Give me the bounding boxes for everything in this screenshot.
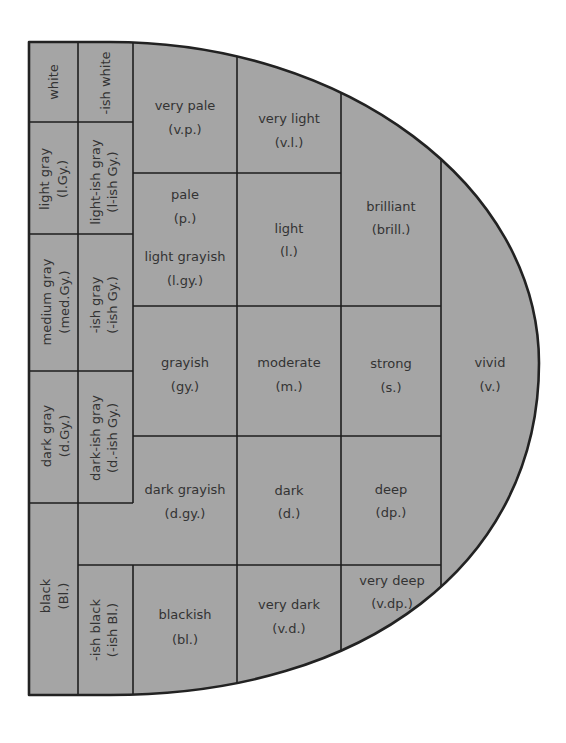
cell-abbr: (l-ish Gy.) [105, 151, 120, 212]
cell-abbr: (-ish Bl.) [105, 603, 120, 657]
cell-abbr: (gy.) [171, 379, 199, 394]
cell-abbr: (d.) [278, 506, 301, 521]
cell-label: light grayish [145, 249, 226, 264]
cell-label: dark grayish [144, 482, 225, 497]
cell-label: vivid [475, 355, 506, 370]
cell-label: -ish gray [88, 276, 103, 333]
cell-label: strong [370, 356, 411, 371]
cell-abbr: (med.Gy.) [57, 270, 72, 333]
cell-label: -ish white [98, 51, 113, 114]
cell-label: white [46, 64, 61, 100]
cell-abbr: (p.) [174, 211, 197, 226]
cell-ish-white: -ish white [98, 51, 113, 114]
cell-abbr: (bl.) [172, 632, 198, 647]
cell-abbr: (v.p.) [168, 122, 201, 137]
cell-abbr: (d.Gy.) [57, 415, 72, 458]
cell-abbr: (l.Gy.) [55, 160, 70, 198]
cell-abbr: (v.dp.) [371, 596, 413, 611]
cell-label: dark-ish gray [88, 395, 103, 481]
cell-label: blackish [158, 607, 211, 622]
cell-abbr: (-ish Gy.) [105, 276, 120, 334]
cell-white: white [46, 64, 61, 100]
cell-label: black [38, 578, 53, 613]
cell-abbr: (brill.) [372, 222, 411, 237]
cell-label: light-ish gray [88, 139, 103, 225]
cell-abbr: (dp.) [376, 505, 407, 520]
cell-label: moderate [257, 355, 320, 370]
cell-label: deep [375, 482, 408, 497]
cell-label: dark gray [39, 404, 54, 467]
cell-label: very deep [359, 573, 424, 588]
tone-diagram: white light gray (l.Gy.) medium gray (me… [0, 0, 566, 743]
cell-label: medium gray [39, 258, 54, 345]
cell-label: light [275, 221, 304, 236]
cell-label: brilliant [366, 199, 415, 214]
cell-abbr: (v.d.) [272, 621, 305, 636]
cell-label: very dark [258, 597, 320, 612]
cell-label: very light [258, 111, 320, 126]
cell-abbr: (m.) [276, 379, 303, 394]
cell-label: light gray [37, 148, 52, 211]
cell-label: -ish black [88, 599, 103, 661]
cell-label: grayish [161, 355, 209, 370]
cell-abbr: (l.gy.) [167, 273, 203, 288]
cell-abbr: (v.l.) [275, 135, 304, 150]
cell-label: dark [274, 483, 304, 498]
cell-abbr: (l.) [280, 244, 298, 259]
cell-label: very pale [155, 98, 216, 113]
cell-abbr: (d.-ish Gy.) [105, 403, 120, 473]
cell-abbr: (v.) [480, 379, 501, 394]
cell-abbr: (d.gy.) [165, 506, 206, 521]
cell-label: pale [171, 187, 199, 202]
cell-abbr: (Bl.) [56, 583, 71, 610]
cell-abbr: (s.) [380, 380, 401, 395]
